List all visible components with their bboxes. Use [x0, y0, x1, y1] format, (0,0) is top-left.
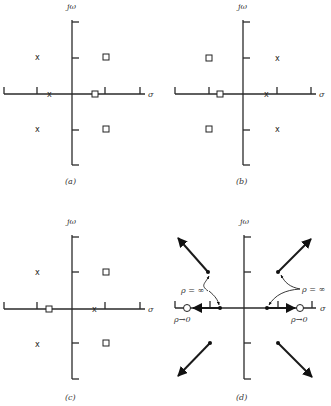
imag-axis-label: jω	[65, 2, 76, 11]
label-rho-zero-left: ρ→0	[173, 315, 191, 324]
pole-marker: x	[47, 90, 52, 99]
branch-upper-right	[278, 239, 311, 272]
pole-marker: x	[35, 268, 40, 277]
label-rho-zero-right: ρ→0	[290, 315, 308, 324]
panel-a-axes	[4, 20, 145, 165]
pole-marker: x	[264, 90, 269, 99]
panel-c-axes	[4, 235, 145, 379]
panel-b-axes	[175, 20, 316, 165]
pole-marker: x	[275, 125, 280, 134]
imag-axis-label: jω	[238, 217, 249, 226]
label-rho-infinity-right: ρ = ∞	[301, 285, 325, 294]
panel-caption: (b)	[236, 177, 247, 186]
zeros	[92, 54, 109, 132]
panel-caption: (d)	[236, 393, 247, 402]
pole-marker: x	[92, 305, 97, 314]
real-axis-label: σ	[148, 90, 154, 99]
pole-zero-figure: jω σ x x x (a) jω σ x	[0, 0, 331, 406]
pole-marker: x	[35, 340, 40, 349]
imag-axis-label: jω	[236, 2, 247, 11]
real-axis-label: σ	[319, 90, 325, 99]
branch-lower-left	[178, 343, 210, 376]
panel-d: jω σ	[173, 217, 326, 402]
branch-upper-left	[178, 238, 208, 272]
panel-c: jω σ x x x (c)	[4, 217, 154, 402]
panel-b: jω σ x x x (b)	[175, 2, 325, 186]
annotation-leaders	[204, 275, 300, 305]
branch-lower-right	[278, 343, 312, 377]
panel-a: jω σ x x x (a)	[4, 2, 154, 186]
zeros	[46, 269, 109, 346]
imag-axis-label: jω	[65, 217, 76, 226]
real-axis-label: σ	[148, 305, 154, 314]
pole-marker: x	[275, 54, 280, 63]
pole-marker: x	[35, 125, 40, 134]
panel-caption: (c)	[65, 393, 76, 402]
label-rho-infinity-left: ρ = ∞	[180, 286, 204, 295]
pole-marker: x	[35, 53, 40, 62]
real-axis-label: σ	[320, 304, 326, 313]
panel-caption: (a)	[65, 177, 76, 186]
